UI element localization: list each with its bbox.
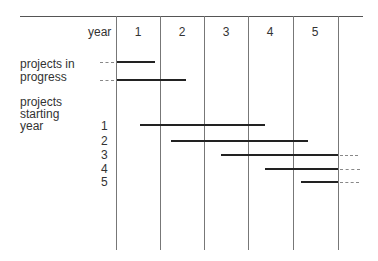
continuation-dash — [340, 169, 360, 170]
project-bar-5 — [301, 181, 338, 183]
in-progress-bar-b — [117, 79, 186, 81]
project-bar-4 — [265, 168, 338, 170]
grid-line — [204, 16, 205, 250]
year-label: year — [88, 26, 111, 39]
row-label-5: 5 — [101, 176, 108, 189]
in-progress-label-2: progress — [20, 71, 67, 84]
in-progress-bar-a — [117, 61, 155, 63]
continuation-dash — [340, 182, 359, 183]
year-3: 3 — [216, 26, 236, 39]
year-2: 2 — [172, 26, 192, 39]
row-label-3: 3 — [101, 149, 108, 162]
year-4: 4 — [260, 26, 280, 39]
grid-line — [248, 16, 249, 250]
continuation-dash — [100, 80, 114, 81]
project-bar-3 — [221, 154, 338, 156]
continuation-dash — [100, 62, 114, 63]
starting-label-3: year — [20, 120, 43, 133]
continuation-dash — [340, 155, 358, 156]
grid-line — [338, 16, 339, 250]
grid-line — [116, 16, 117, 250]
grid-line — [160, 16, 161, 250]
project-bar-2 — [171, 140, 308, 142]
top-rule — [20, 16, 363, 17]
project-bar-1 — [140, 124, 265, 126]
row-label-1: 1 — [101, 120, 108, 133]
year-5: 5 — [305, 26, 325, 39]
row-label-2: 2 — [101, 135, 108, 148]
year-1: 1 — [128, 26, 148, 39]
grid-line — [293, 16, 294, 250]
